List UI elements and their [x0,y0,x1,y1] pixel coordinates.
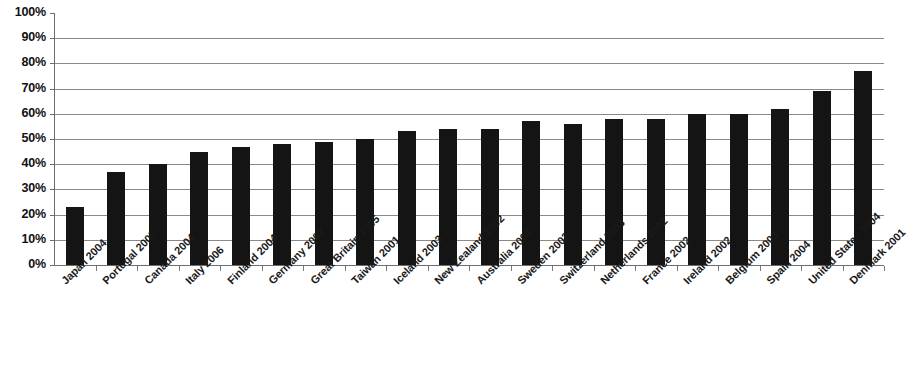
gridline [54,139,884,140]
gridline [54,164,884,165]
x-axis-tick [843,266,844,271]
bar [813,91,831,265]
bar [107,172,125,265]
x-axis-tick [552,266,553,271]
x-axis-tick [760,266,761,271]
x-axis-tick [137,266,138,271]
x-axis-tick [303,266,304,271]
x-axis-tick [220,266,221,271]
gridline [54,215,884,216]
bar [149,164,167,265]
gridline [54,38,884,39]
x-axis-tick [96,266,97,271]
x-axis-tick [718,266,719,271]
x-axis-tick [386,266,387,271]
bar [439,129,457,265]
x-axis-tick [511,266,512,271]
x-axis-tick [262,266,263,271]
bar [481,129,499,265]
gridline [54,189,884,190]
bar [564,124,582,265]
x-axis-tick [635,266,636,271]
x-axis-tick [469,266,470,271]
y-axis-tick-label: 10% [0,232,46,246]
x-axis-tick [179,266,180,271]
y-axis-tick-label: 20% [0,207,46,221]
x-axis-tick [677,266,678,271]
y-axis-line [54,13,55,266]
x-axis-tick [801,266,802,271]
bar [315,142,333,265]
bar [356,139,374,265]
x-axis-tick [428,266,429,271]
y-axis-tick-label: 50% [0,131,46,145]
y-axis-tick-label: 30% [0,181,46,195]
x-axis-tick [594,266,595,271]
gridline [54,89,884,90]
y-axis-tick-label: 60% [0,106,46,120]
x-axis-tick [884,266,885,271]
gridline [54,63,884,64]
bar [232,147,250,265]
bar [273,144,291,265]
y-axis-tick-label: 100% [0,5,46,19]
y-axis-tick-label: 90% [0,30,46,44]
bar [190,152,208,265]
y-axis-tick-label: 70% [0,81,46,95]
y-axis-tick-label: 80% [0,55,46,69]
y-axis-tick-label: 40% [0,156,46,170]
y-axis-tick-label: 0% [0,257,46,271]
bar [398,131,416,265]
x-axis-tick [345,266,346,271]
gridline [54,114,884,115]
